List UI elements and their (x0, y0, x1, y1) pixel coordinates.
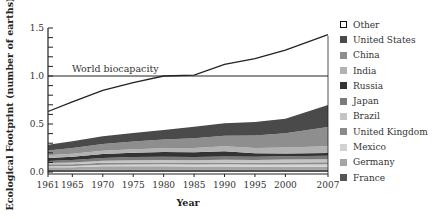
legend-item-other: Other (340, 17, 428, 32)
legend-swatch-icon (340, 98, 347, 105)
x-tick-label: 1975 (122, 180, 145, 190)
legend-item-germany: Germany (340, 155, 428, 170)
legend-label: Russia (353, 81, 383, 91)
legend-label: Brazil (353, 111, 380, 121)
legend-item-russia: Russia (340, 78, 428, 93)
legend-swatch-icon (340, 82, 347, 89)
legend-label: France (353, 173, 385, 183)
legend-item-china: China (340, 48, 428, 63)
legend-swatch-icon (340, 144, 347, 151)
x-tick-label: 1965 (61, 180, 84, 190)
x-tick-label: 2000 (274, 180, 297, 190)
legend-swatch-icon (340, 21, 347, 28)
legend-swatch-icon (340, 128, 347, 135)
legend: OtherUnited StatesChinaIndiaRussiaJapanB… (340, 17, 428, 185)
area-germany (48, 166, 328, 170)
x-tick-label: 1980 (152, 180, 175, 190)
legend-label: Japan (353, 96, 379, 106)
world-biocapacity-label: World biocapacity (72, 63, 159, 74)
x-tick-label: 1961 (37, 180, 60, 190)
x-tick-label: 1995 (244, 180, 267, 190)
legend-label: India (353, 66, 376, 76)
area-france (48, 170, 328, 172)
legend-label: Germany (353, 157, 395, 167)
legend-label: United States (353, 35, 416, 45)
y-tick-label: 1.0 (30, 71, 45, 81)
legend-item-india: India (340, 63, 428, 78)
x-axis-title: Year (175, 197, 200, 208)
legend-label: United Kingdom (353, 127, 428, 137)
x-tick-label: 1985 (183, 180, 206, 190)
x-tick-label: 1990 (213, 180, 236, 190)
y-tick-label: 0.5 (30, 119, 45, 129)
legend-swatch-icon (340, 159, 347, 166)
y-tick-label: 0.0 (30, 167, 45, 177)
legend-swatch-icon (340, 113, 347, 120)
stacked-areas (48, 105, 328, 172)
x-tick-label: 2007 (317, 180, 340, 190)
x-tick-label: 1970 (91, 180, 114, 190)
legend-item-united-kingdom: United Kingdom (340, 124, 428, 139)
legend-label: Other (353, 20, 379, 30)
legend-item-france: France (340, 170, 428, 185)
legend-swatch-icon (340, 174, 347, 181)
legend-item-brazil: Brazil (340, 109, 428, 124)
y-axis-title: Ecological Footprint (number of earths) (4, 0, 15, 211)
legend-label: China (353, 50, 380, 60)
legend-swatch-icon (340, 67, 347, 74)
legend-item-mexico: Mexico (340, 139, 428, 154)
legend-swatch-icon (340, 52, 347, 59)
legend-item-japan: Japan (340, 93, 428, 108)
legend-swatch-icon (340, 36, 347, 43)
legend-item-united-states: United States (340, 32, 428, 47)
y-tick-label: 1.5 (30, 23, 45, 33)
legend-label: Mexico (353, 142, 386, 152)
